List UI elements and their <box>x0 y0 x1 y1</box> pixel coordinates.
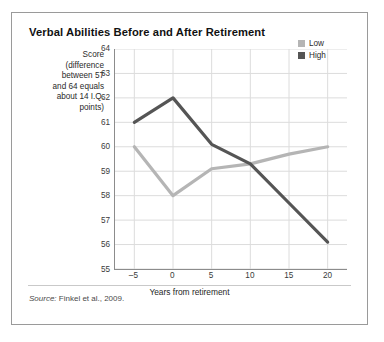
legend-item-low: Low <box>298 39 326 48</box>
legend-swatch-icon <box>298 52 305 59</box>
plot-frame <box>114 49 347 270</box>
x-axis-tick: 0 <box>170 271 175 280</box>
source-citation: Finkel et al., 2009. <box>59 294 124 303</box>
x-axis-tick: –5 <box>129 271 138 280</box>
y-axis-tick: 57 <box>88 216 110 225</box>
y-axis-tick: 59 <box>88 167 110 176</box>
chart-svg <box>115 49 347 269</box>
chart-legend: LowHigh <box>298 39 326 63</box>
legend-label: High <box>309 51 326 60</box>
y-axis-tick: 62 <box>88 93 110 102</box>
y-axis-tick: 61 <box>88 118 110 127</box>
legend-label: Low <box>309 39 324 48</box>
x-axis-tick: 20 <box>323 271 332 280</box>
x-axis-tick: 10 <box>245 271 254 280</box>
y-axis-tick: 60 <box>88 142 110 151</box>
chart-plot-area <box>113 48 347 270</box>
y-axis-tick: 58 <box>88 191 110 200</box>
y-axis-tick: 56 <box>88 240 110 249</box>
legend-item-high: High <box>298 51 326 60</box>
y-axis-tick: 55 <box>88 265 110 274</box>
y-axis-tick: 63 <box>88 69 110 78</box>
source-label: Source: <box>29 294 57 303</box>
chart-card: Verbal Abilities Before and After Retire… <box>11 12 368 325</box>
page-title: Verbal Abilities Before and After Retire… <box>29 26 265 38</box>
x-axis-tick: 5 <box>209 271 214 280</box>
footer-divider <box>28 285 351 286</box>
legend-swatch-icon <box>298 40 305 47</box>
x-axis-tick: 15 <box>284 271 293 280</box>
x-axis-ticks: –505101520 <box>113 271 349 285</box>
source-note: Source: Finkel et al., 2009. <box>29 294 124 303</box>
y-axis-ticks: 64636261605958575655 <box>76 13 110 237</box>
y-axis-tick: 64 <box>88 44 110 53</box>
